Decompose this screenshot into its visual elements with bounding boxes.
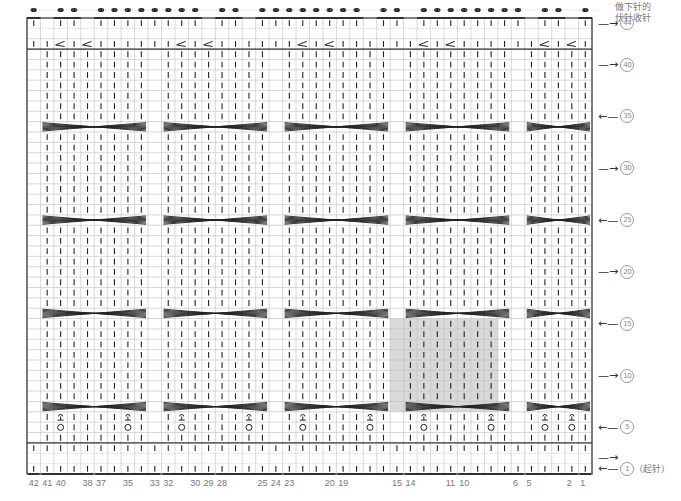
row-number: 15 (620, 317, 634, 331)
arrow-right-icon: —→ (598, 162, 618, 175)
arrow-right-icon: —→ (598, 17, 618, 30)
arrow-left-icon: ←— (598, 214, 618, 227)
decrease-symbol (325, 41, 334, 46)
knitting-chart (0, 0, 681, 501)
column-label: 15 (392, 478, 402, 488)
row-number: 5 (620, 420, 634, 434)
column-label: 33 (150, 478, 160, 488)
column-label: 25 (257, 478, 267, 488)
decrease-symbol (177, 41, 186, 46)
row-number: 25 (620, 213, 634, 227)
column-label: 2 (567, 478, 572, 488)
column-label: 29 (204, 478, 214, 488)
column-label: 30 (190, 478, 200, 488)
yarn-over-symbol (58, 424, 64, 430)
twisted-stitch-symbol (488, 414, 494, 420)
cast-on-label: （起针） (634, 462, 670, 475)
arrow-right-icon: —→ (598, 265, 618, 278)
row-label-40: —→40 (598, 58, 634, 72)
arrow-left-icon: ←— (598, 110, 618, 123)
column-label: 23 (284, 478, 294, 488)
yarn-over-symbol (488, 424, 494, 430)
column-label: 20 (325, 478, 335, 488)
decrease-symbol (446, 41, 455, 46)
twisted-stitch-symbol (179, 414, 185, 420)
decrease-symbol (298, 41, 307, 46)
row-label-5: ←—5 (598, 420, 634, 434)
cable-cross-symbol (527, 216, 590, 224)
column-label: 28 (217, 478, 227, 488)
column-label: 40 (56, 478, 66, 488)
yarn-over-symbol (179, 424, 185, 430)
yarn-over-symbol (569, 424, 575, 430)
row-label-35: ←—35 (598, 109, 634, 123)
yarn-over-symbol (125, 424, 131, 430)
yarn-over-symbol (246, 424, 252, 430)
column-label: 1 (580, 478, 585, 488)
twisted-stitch-symbol (300, 414, 306, 420)
column-label: 38 (83, 478, 93, 488)
twisted-stitch-symbol (125, 414, 131, 420)
yarn-over-symbol (421, 424, 427, 430)
row-label-44: —→44 (598, 16, 634, 30)
row-number: 40 (620, 58, 634, 72)
column-label: 32 (163, 478, 173, 488)
yarn-over-symbol (367, 424, 373, 430)
row-number: 20 (620, 265, 634, 279)
arrow-left-icon: ←— (598, 317, 618, 330)
row-label-1: ←—1（起针） (598, 462, 670, 476)
column-label: 41 (42, 478, 52, 488)
column-label: 24 (271, 478, 281, 488)
row-label-10: —→10 (598, 369, 634, 383)
column-label: 6 (513, 478, 518, 488)
twisted-stitch-symbol (421, 414, 427, 420)
cable-cross-symbol (527, 402, 590, 410)
cable-cross-symbol (527, 123, 590, 131)
twisted-stitch-symbol (246, 414, 252, 420)
row-number: 35 (620, 109, 634, 123)
arrow-left-icon: ←— (598, 462, 618, 475)
row-number: 44 (620, 16, 634, 30)
column-label: 35 (123, 478, 133, 488)
arrow-left-icon: ←— (598, 421, 618, 434)
decrease-symbol (204, 41, 213, 46)
column-label: 42 (29, 478, 39, 488)
row-label-20: —→20 (598, 265, 634, 279)
bind-off-note-line1: 做下针的 (615, 2, 651, 13)
twisted-stitch-symbol (58, 414, 64, 420)
twisted-stitch-symbol (367, 414, 373, 420)
column-label: 14 (405, 478, 415, 488)
column-label: 11 (446, 478, 455, 488)
yarn-over-symbol (300, 424, 306, 430)
row-label-25: ←—25 (598, 213, 634, 227)
decrease-symbol (83, 41, 92, 46)
column-label: 5 (526, 478, 531, 488)
decrease-symbol (419, 41, 428, 46)
row-number: 1 (620, 462, 634, 476)
cable-cross-symbol (527, 309, 590, 317)
twisted-stitch-symbol (542, 414, 548, 420)
decrease-symbol (567, 41, 576, 46)
yarn-over-symbol (542, 424, 548, 430)
arrow-right-icon: —→ (598, 58, 618, 71)
column-label: 10 (459, 478, 469, 488)
row-label-30: —→30 (598, 161, 634, 175)
row-number: 10 (620, 369, 634, 383)
arrow-right-icon: —→ (598, 369, 618, 382)
row-number: 30 (620, 161, 634, 175)
twisted-stitch-symbol (569, 414, 575, 420)
decrease-symbol (56, 41, 65, 46)
column-label: 19 (338, 478, 348, 488)
row-label-15: ←—15 (598, 317, 634, 331)
column-label: 37 (96, 478, 106, 488)
decrease-symbol (540, 41, 549, 46)
